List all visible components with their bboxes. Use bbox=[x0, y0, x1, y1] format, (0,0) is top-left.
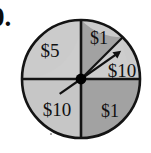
sector-label-lower-left: $10 bbox=[43, 99, 72, 120]
page-speck bbox=[50, 133, 52, 135]
sector-label-top: $1 bbox=[90, 28, 108, 48]
spinner-diagram: $5 $1 $10 $10 $1 bbox=[0, 0, 151, 153]
sector-label-right: $10 bbox=[108, 60, 137, 81]
figure-page: 0. $5 $1 $10 $10 $1 bbox=[0, 0, 151, 153]
sector-label-lower-right: $1 bbox=[101, 101, 119, 121]
sector-label-upper-left: $5 bbox=[41, 40, 60, 61]
spinner-hub[interactable] bbox=[76, 74, 87, 85]
